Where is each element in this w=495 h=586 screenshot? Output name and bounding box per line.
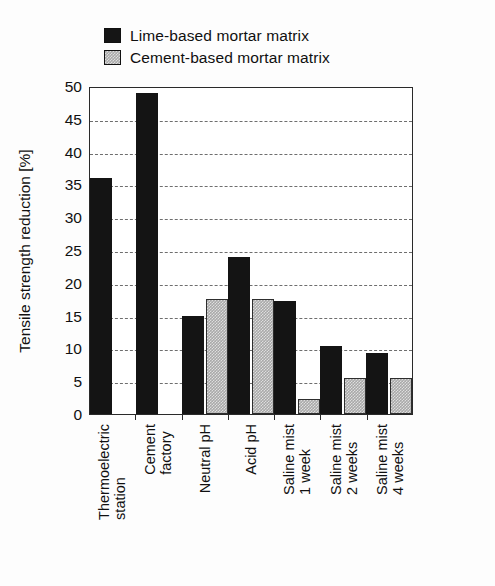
x-label-cell: Cementfactory bbox=[135, 424, 181, 584]
x-tick-mark bbox=[135, 415, 136, 420]
legend-label-lime: Lime-based mortar matrix bbox=[130, 27, 309, 45]
legend-swatch-dark-icon bbox=[104, 28, 121, 43]
bar-group bbox=[366, 88, 412, 414]
bar-group bbox=[90, 88, 136, 414]
legend-swatch-light-icon bbox=[104, 50, 121, 65]
bar-dark bbox=[366, 353, 388, 414]
bar-dark bbox=[228, 257, 250, 414]
x-tick-mark bbox=[228, 415, 229, 420]
x-axis-labels: ThermoelectricstationCementfactoryNeutra… bbox=[89, 424, 413, 584]
legend-label-cement: Cement-based mortar matrix bbox=[130, 49, 330, 67]
x-tick-mark bbox=[320, 415, 321, 420]
bar-light bbox=[344, 378, 366, 414]
x-tick-mark bbox=[274, 415, 275, 420]
x-label-line2: factory bbox=[158, 424, 174, 475]
x-axis-category-label: Thermoelectricstation bbox=[96, 424, 128, 520]
x-axis-category-label: Saline mist1 week bbox=[281, 424, 313, 495]
bar-dark bbox=[182, 316, 204, 414]
x-label-cell: Saline mist2 weeks bbox=[320, 424, 366, 584]
x-label-line1: Thermoelectric bbox=[96, 424, 112, 520]
x-axis-category-label: Saline mist4 weeks bbox=[374, 424, 406, 495]
bar-group bbox=[228, 88, 274, 414]
x-axis-category-label: Neutral pH bbox=[197, 424, 213, 493]
x-axis-category-label: Acid pH bbox=[243, 424, 259, 475]
x-label-line2: 4 weeks bbox=[390, 424, 406, 495]
bar-dark bbox=[136, 93, 158, 414]
x-tick-mark bbox=[182, 415, 183, 420]
y-tick-label: 50 bbox=[65, 78, 82, 96]
bar-dark bbox=[90, 178, 112, 414]
bar-light bbox=[390, 378, 412, 414]
y-axis-ticks: 05101520253035404550 bbox=[0, 0, 89, 586]
bars-layer bbox=[90, 88, 412, 414]
bar-light bbox=[252, 299, 274, 414]
bar-light bbox=[298, 399, 320, 414]
y-tick-label: 15 bbox=[65, 308, 82, 326]
bar-dark bbox=[274, 301, 296, 414]
plot-area bbox=[89, 87, 413, 415]
x-label-line1: Neutral pH bbox=[197, 424, 213, 493]
x-axis-category-label: Saline mist2 weeks bbox=[328, 424, 360, 495]
x-label-cell: Acid pH bbox=[228, 424, 274, 584]
bar-group bbox=[274, 88, 320, 414]
x-label-cell: Neutral pH bbox=[182, 424, 228, 584]
x-label-line2: 1 week bbox=[297, 424, 313, 495]
x-label-line1: Saline mist bbox=[281, 424, 297, 495]
x-label-line1: Acid pH bbox=[243, 424, 259, 475]
y-tick-label: 45 bbox=[65, 111, 82, 129]
bar-dark bbox=[320, 346, 342, 414]
bar-light bbox=[206, 299, 228, 414]
x-label-cell: Saline mist4 weeks bbox=[367, 424, 413, 584]
x-axis-category-label: Cementfactory bbox=[142, 424, 174, 475]
x-label-cell: Thermoelectricstation bbox=[89, 424, 135, 584]
legend-item-lime: Lime-based mortar matrix bbox=[104, 26, 330, 45]
x-label-line1: Saline mist bbox=[374, 424, 390, 495]
bar-group bbox=[136, 88, 182, 414]
x-label-line1: Saline mist bbox=[328, 424, 344, 495]
y-tick-label: 30 bbox=[65, 209, 82, 227]
x-label-line2: 2 weeks bbox=[344, 424, 360, 495]
y-tick-label: 25 bbox=[65, 242, 82, 260]
y-tick-label: 35 bbox=[65, 176, 82, 194]
x-label-cell: Saline mist1 week bbox=[274, 424, 320, 584]
x-label-line1: Cement bbox=[142, 424, 158, 475]
legend-item-cement: Cement-based mortar matrix bbox=[104, 48, 330, 67]
y-tick-label: 40 bbox=[65, 144, 82, 162]
bar-chart-figure: Lime-based mortar matrix Cement-based mo… bbox=[0, 0, 495, 586]
bar-group bbox=[320, 88, 366, 414]
y-tick-label: 0 bbox=[73, 406, 82, 424]
x-axis-ticks bbox=[89, 415, 413, 421]
y-tick-label: 20 bbox=[65, 275, 82, 293]
y-tick-label: 10 bbox=[65, 340, 82, 358]
bar-group bbox=[182, 88, 228, 414]
y-tick-label: 5 bbox=[73, 373, 82, 391]
chart-legend: Lime-based mortar matrix Cement-based mo… bbox=[104, 26, 330, 67]
x-label-line2: station bbox=[112, 424, 128, 520]
x-tick-mark bbox=[367, 415, 368, 420]
